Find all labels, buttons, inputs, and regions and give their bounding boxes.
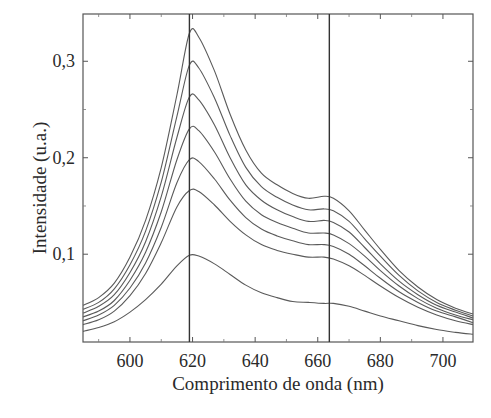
x-tick-label: 700 [429,351,456,371]
y-axis-label: Intensidade (u.a.) [29,122,51,254]
x-tick-label: 660 [304,351,331,371]
y-tick-label: 0,1 [53,244,76,264]
x-axis-label: Comprimento de onda (nm) [172,373,384,395]
x-tick-label: 680 [367,351,394,371]
y-tick-label: 0,2 [53,148,76,168]
emission-spectrum-chart: 600620640660680700 0,10,20,3 Comprimento… [0,0,491,418]
x-tick-labels: 600620640660680700 [116,351,456,371]
x-tick-label: 600 [116,351,143,371]
y-tick-label: 0,3 [53,51,76,71]
x-tick-label: 620 [179,351,206,371]
x-tick-label: 640 [242,351,269,371]
y-tick-labels: 0,10,20,3 [53,51,76,264]
